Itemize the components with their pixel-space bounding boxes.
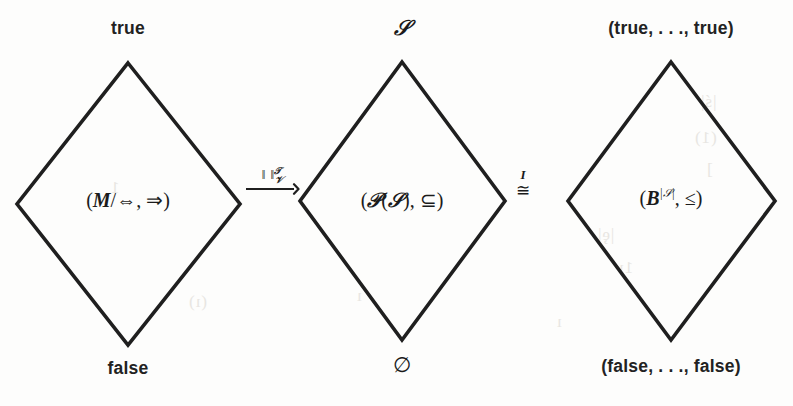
cardinality-exponent: |𝒮| [659,187,674,199]
formula-lattice-top-label: true [68,20,188,38]
formula-lattice-center-label: (M/⇔, ⇒) [28,190,228,210]
valuation-subscript-V: 𝒱 [275,176,283,186]
formula-lattice-bottom-label: false [68,360,188,378]
script-S-symbol: 𝒮 [394,16,410,40]
boolean-vector-lattice-center-label: (B|𝒮|, ≤) [596,188,746,208]
isomorphism-map-label: I [508,168,538,181]
valuation-map-label: ‖ ‖𝒯𝒱 [262,168,283,182]
arg-paren-open: ( [381,189,388,211]
boolean-vector-lattice-top-label: (true, . . ., true) [586,20,756,38]
paren-open: ( [86,189,93,211]
arg-paren-close: ) [403,189,410,211]
equivalence-symbol: ⇔ [116,189,136,211]
less-equal-order-symbol: ≤ [685,187,696,209]
paren-close: ) [696,187,703,209]
valuation-map-connector: ‖ ‖𝒯𝒱 [244,166,300,197]
formula-set-symbol: M [93,189,111,211]
subset-order-symbol: ⊆ [420,189,437,211]
paren-close: ) [163,189,170,211]
label-comma: , [675,187,685,209]
congruence-symbol: ≅ [508,182,538,199]
paren-close: ) [437,189,444,211]
blackboard-bold-B-symbol: B [646,187,659,209]
implication-order-symbol: ⇒ [146,189,163,211]
powerset-lattice-bottom-label: ∅ [362,355,442,376]
powerset-lattice-top-label: 𝒮 [352,18,452,39]
long-rightarrow-icon [244,183,300,197]
isomorphism-map-connector: I ≅ [508,168,538,199]
powerset-operator-symbol: 𝒫 [367,189,381,211]
script-S-symbol: 𝒮 [388,189,403,211]
powerset-lattice-center-label: (𝒫(𝒮), ⊆) [322,190,482,210]
boolean-vector-lattice-bottom-label: (false, . . ., false) [578,358,764,376]
figure-canvas: |ś|(1)]|ȩ|1ıı(ı)1ı true (M/⇔, ⇒) false ‖… [0,0,793,406]
label-comma: , [410,189,420,211]
label-comma: , [136,189,146,211]
